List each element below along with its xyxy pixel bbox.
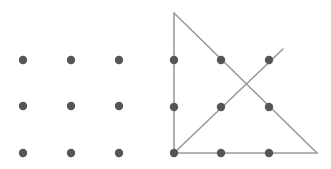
dot: [170, 56, 178, 64]
dot: [217, 103, 225, 111]
dot: [265, 149, 273, 157]
dot: [19, 102, 27, 110]
dot: [170, 149, 178, 157]
dot: [217, 56, 225, 64]
dot: [67, 102, 75, 110]
dot: [217, 149, 225, 157]
dot: [265, 56, 273, 64]
solution-line: [174, 49, 283, 153]
dot: [265, 103, 273, 111]
dot: [67, 56, 75, 64]
dot: [19, 56, 27, 64]
dot: [115, 149, 123, 157]
dot: [170, 103, 178, 111]
dot: [19, 149, 27, 157]
dot: [67, 149, 75, 157]
dot: [115, 102, 123, 110]
nine-dot-diagram: [0, 0, 331, 169]
dot: [115, 56, 123, 64]
solution-lines: [174, 13, 317, 153]
unsolved-dot-grid: [19, 56, 123, 157]
